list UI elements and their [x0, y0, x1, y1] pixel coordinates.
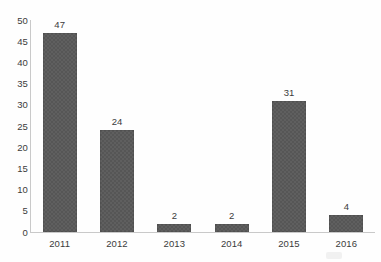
bar-2016[interactable]: 4: [329, 20, 363, 232]
x-axis-label-2014: 2014: [203, 238, 260, 249]
y-axis-tick-labels: 50454035302520151050: [0, 0, 28, 262]
x-axis-line: [30, 232, 375, 233]
bar-2012[interactable]: 24: [100, 20, 134, 232]
x-axis-label-2011: 2011: [31, 238, 88, 249]
y-axis-tick-35: 35: [2, 79, 28, 88]
bar-2011[interactable]: 47: [43, 20, 77, 232]
bar-rect-2013[interactable]: [157, 224, 191, 232]
bar-value-label-2015: 31: [284, 88, 295, 98]
bar-rect-2016[interactable]: [329, 215, 363, 232]
bar-rect-2012[interactable]: [100, 130, 134, 232]
y-axis-tick-45: 45: [2, 37, 28, 46]
bar-rect-2015[interactable]: [272, 101, 306, 232]
bar-rect-2014[interactable]: [215, 224, 249, 232]
bar-value-label-2011: 47: [54, 20, 65, 30]
bar-value-label-2013: 2: [172, 211, 177, 221]
x-axis-label-2012: 2012: [88, 238, 145, 249]
scan-watermark-artifact: [303, 240, 316, 248]
x-axis-label-2016: 2016: [318, 238, 375, 249]
bar-2014[interactable]: 2: [215, 20, 249, 232]
bar-2015[interactable]: 31: [272, 20, 306, 232]
bar-rect-2011[interactable]: [43, 33, 77, 232]
x-axis-category-labels: 201120122013201420152016: [31, 238, 375, 254]
bar-chart: 50454035302520151050 472422314 201120122…: [0, 0, 381, 262]
y-axis-tick-50: 50: [2, 16, 28, 25]
bar-2013[interactable]: 2: [157, 20, 191, 232]
y-axis-tick-20: 20: [2, 143, 28, 152]
bar-value-label-2016: 4: [344, 202, 349, 212]
bar-series: 472422314: [31, 20, 375, 232]
y-axis-tick-25: 25: [2, 122, 28, 131]
bar-value-label-2012: 24: [112, 117, 123, 127]
y-axis-tick-0: 0: [2, 228, 28, 237]
scan-speckle-artifact: [326, 252, 342, 259]
y-axis-tick-15: 15: [2, 164, 28, 173]
bar-value-label-2014: 2: [229, 211, 234, 221]
y-axis-tick-40: 40: [2, 58, 28, 67]
y-axis-tick-5: 5: [2, 206, 28, 215]
x-axis-label-2013: 2013: [146, 238, 203, 249]
y-axis-tick-30: 30: [2, 100, 28, 109]
y-axis-tick-10: 10: [2, 185, 28, 194]
